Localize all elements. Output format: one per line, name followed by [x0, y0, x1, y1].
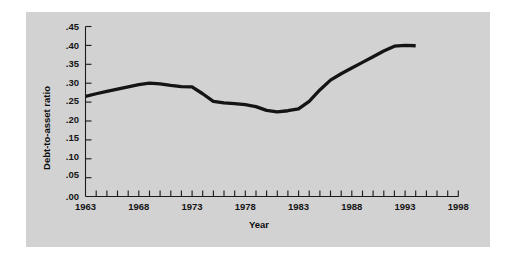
y-tick-label-045: .45: [66, 21, 80, 32]
x-tick-label-1968: 1968: [128, 201, 149, 212]
y-tick-label-030: .30: [66, 77, 79, 88]
y-axis-title: Debt-to-asset ratio: [41, 86, 52, 170]
y-tick-label-000: .00: [66, 191, 79, 202]
x-tick-label-1988: 1988: [341, 201, 362, 212]
y-tick-label-040: .40: [66, 40, 79, 51]
debt-to-asset-ratio-line-chart: Debt-to-asset ratio .45 .40 .35 .30 .25 …: [0, 0, 515, 259]
x-tick-label-1998: 1998: [448, 201, 469, 212]
y-tick-label-020: .20: [66, 114, 79, 125]
y-tick-label-015: .15: [66, 132, 80, 143]
data-series-line: [86, 45, 416, 111]
y-tick-label-025: .25: [66, 95, 80, 106]
y-tick-label-035: .35: [66, 58, 80, 69]
x-tick-label-1973: 1973: [182, 201, 203, 212]
x-tick-label-1983: 1983: [288, 201, 309, 212]
y-tick-label-005: .05: [66, 169, 80, 180]
x-axis-title: Year: [249, 219, 269, 230]
x-tick-label-1978: 1978: [235, 201, 256, 212]
x-tick-label-1963: 1963: [75, 201, 96, 212]
x-tick-label-1993: 1993: [395, 201, 416, 212]
y-tick-label-010: .10: [66, 151, 79, 162]
x-axis-minor-ticks: [96, 191, 458, 197]
chart-page: Debt-to-asset ratio .45 .40 .35 .30 .25 …: [0, 0, 515, 259]
